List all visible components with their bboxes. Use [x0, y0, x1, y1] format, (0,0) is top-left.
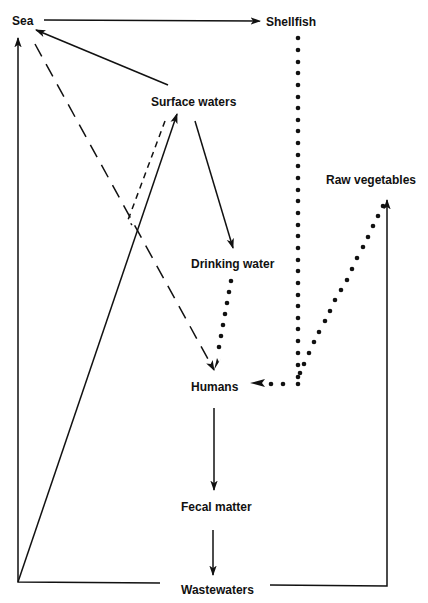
edge-surface-waters-to-humans: [128, 121, 165, 225]
edge-surface-waters-to-sea: [36, 30, 168, 85]
edge-shellfish-to-humans: [250, 36, 300, 387]
node-sea: Sea: [12, 14, 33, 28]
node-surface-waters: Surface waters: [151, 95, 236, 109]
node-raw-vegetables: Raw vegetables: [326, 173, 416, 187]
edge-sea-to-humans: [35, 44, 214, 370]
edge-drinking-water-to-humans: [214, 279, 233, 370]
edge-surface-waters-to-drinking-water: [195, 121, 233, 248]
edge-wastewaters-to-sea: [18, 38, 160, 583]
node-humans: Humans: [191, 380, 238, 394]
edge-sea-to-shellfish: [44, 20, 260, 21]
node-fecal-matter: Fecal matter: [181, 500, 252, 514]
node-shellfish: Shellfish: [266, 15, 316, 29]
edge-wastewaters-to-surface-waters: [18, 114, 177, 582]
edge-raw-vegetables-to-humans: [298, 204, 386, 376]
node-drinking-water: Drinking water: [191, 257, 274, 271]
node-wastewaters: Wastewaters: [181, 583, 254, 597]
edge-wastewaters-to-raw-vegetables: [270, 200, 387, 586]
